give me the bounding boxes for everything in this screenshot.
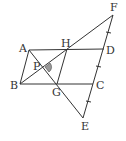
label-E: E bbox=[81, 120, 89, 133]
label-H: H bbox=[61, 37, 71, 50]
label-P: P bbox=[33, 60, 41, 73]
label-B: B bbox=[10, 79, 18, 92]
label-G: G bbox=[52, 86, 61, 99]
segment-HG bbox=[57, 49, 67, 84]
label-C: C bbox=[96, 79, 104, 92]
tick-mark-FD bbox=[106, 32, 111, 33]
tick-mark-DC bbox=[96, 66, 101, 67]
label-D: D bbox=[106, 44, 115, 57]
label-A: A bbox=[18, 42, 28, 55]
tick-mark-CE bbox=[86, 101, 91, 102]
label-F: F bbox=[110, 1, 118, 14]
geometry-diagram: A H D B G C E F P bbox=[0, 0, 126, 141]
